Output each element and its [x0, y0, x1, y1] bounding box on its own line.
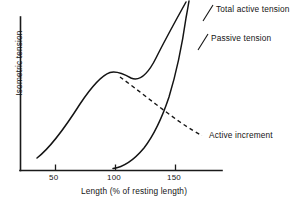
label-total-active-tension: Total active tension	[216, 4, 290, 14]
curve-total-active-tension	[37, 2, 186, 158]
x-tick-label-150: 150	[167, 173, 181, 182]
leader-line-passive-tension	[198, 34, 208, 50]
x-tick-label-50: 50	[49, 173, 58, 182]
x-axis-title: Length (% of resting length)	[44, 186, 224, 196]
curve-active-increment	[120, 77, 202, 136]
label-passive-tension: Passive tension	[211, 33, 271, 43]
curve-passive-tension	[113, 1, 189, 169]
y-axis-title: Isometric tension	[14, 8, 24, 118]
leader-line-total-active-tension	[203, 5, 213, 21]
length-tension-figure: 50 100 150 Length (% of resting length) …	[0, 0, 296, 206]
label-active-increment: Active increment	[209, 130, 273, 140]
x-tick-label-100: 100	[107, 173, 121, 182]
plot-canvas	[0, 0, 296, 206]
